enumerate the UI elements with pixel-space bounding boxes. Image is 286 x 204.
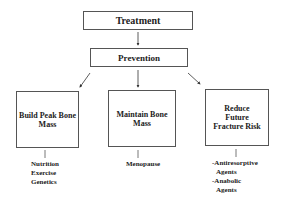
prevention-box: Prevention [90,48,188,67]
detail-item: Agents [212,168,258,177]
reduce-risk-details: -Antiresorptive Agents -Anabolic Agents [212,159,258,195]
maintain-bone-mass-box: Maintain Bone Mass [108,90,176,147]
detail-item: -Anabolic [212,177,258,186]
detail-item: Genetics [31,178,59,187]
reduce-fracture-risk-label: Reduce Future Fracture Risk [212,104,262,131]
maintain-bone-mass-label: Maintain Bone Mass [113,110,171,128]
detail-item: Exercise [31,169,59,178]
maintain-details: Menopause [126,160,160,169]
detail-item: Nutrition [31,160,59,169]
treatment-box: Treatment [83,11,193,30]
reduce-fracture-risk-box: Reduce Future Fracture Risk [205,89,269,146]
detail-item: -Antiresorptive [212,159,258,168]
detail-item: Agents [212,186,258,195]
prevention-label: Prevention [118,53,160,63]
build-peak-bone-mass-box: Build Peak Bone Mass [16,91,79,148]
build-peak-bone-mass-label: Build Peak Bone Mass [19,111,76,129]
build-peak-details: Nutrition Exercise Genetics [31,160,59,187]
treatment-label: Treatment [116,15,161,26]
detail-item: Menopause [126,160,160,169]
